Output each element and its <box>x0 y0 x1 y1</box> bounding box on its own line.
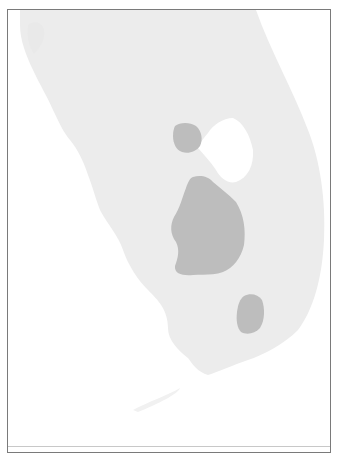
highlight-area-north <box>173 123 202 153</box>
map-canvas <box>8 10 331 453</box>
land-mass <box>20 10 324 375</box>
map-frame <box>7 9 331 453</box>
keys-hint <box>133 388 180 412</box>
highlight-area-southeast <box>237 294 264 333</box>
bottom-rule <box>8 446 330 447</box>
